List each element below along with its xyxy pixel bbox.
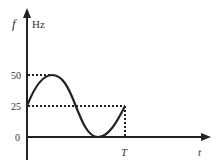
tick-label-25: 25: [11, 101, 21, 112]
y-axis-arrow-icon: [23, 8, 31, 18]
x-axis-arrow-icon: [201, 133, 211, 141]
x-axis-symbol: t: [198, 146, 202, 158]
y-axis-symbol: f: [12, 16, 18, 31]
x-mark-T: T: [121, 146, 128, 158]
tick-label-0: 0: [15, 132, 20, 143]
y-axis-unit: Hz: [32, 18, 45, 30]
frequency-time-diagram: f Hz 50 25 0 T t: [0, 0, 218, 167]
tick-label-50: 50: [11, 70, 21, 81]
